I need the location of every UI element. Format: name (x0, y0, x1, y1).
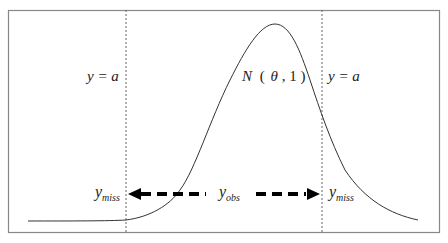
right-arrow (256, 188, 320, 200)
left-threshold-label: y = a (85, 68, 119, 84)
distribution-label: N ( θ , 1 ) (241, 68, 305, 85)
normal-distribution-diagram: y = a y = a N ( θ , 1 ) ymiss yobs ymiss (0, 0, 448, 243)
left-arrow (128, 188, 206, 200)
right-threshold-label: y = a (326, 68, 360, 84)
observed-label: yobs (217, 183, 240, 203)
left-missing-label: ymiss (93, 183, 120, 203)
right-missing-label: ymiss (327, 183, 354, 203)
